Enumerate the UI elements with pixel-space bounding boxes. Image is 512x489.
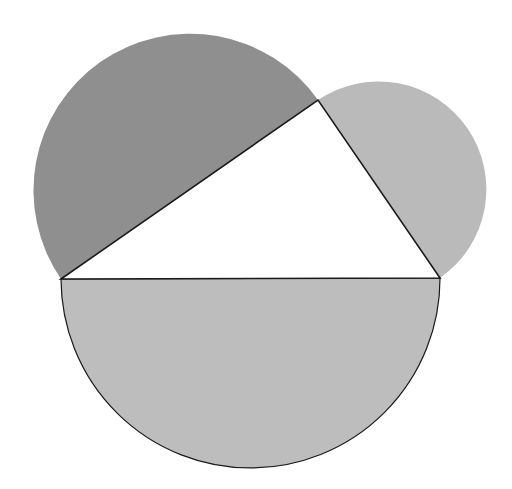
bottom-semicircle <box>61 278 440 468</box>
pythagorean-semicircles-diagram <box>0 0 512 489</box>
